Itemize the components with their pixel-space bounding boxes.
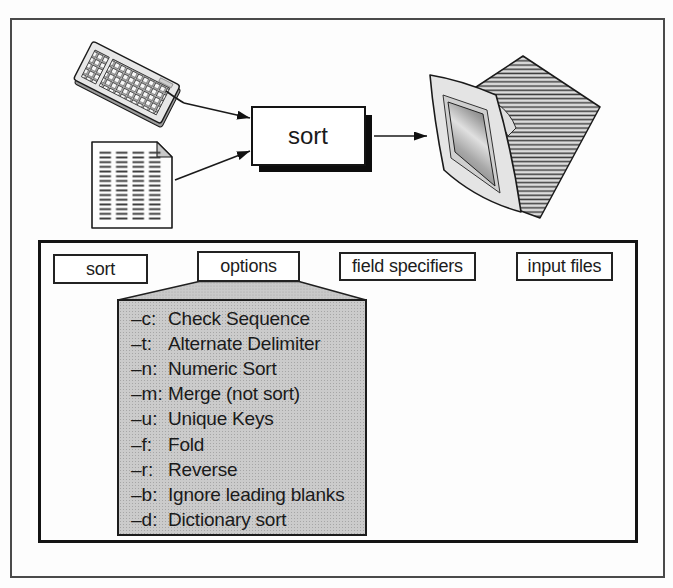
segment-box-input-files: input files [516, 252, 613, 281]
segment-label-options: options [220, 256, 277, 277]
option-desc: Reverse [168, 459, 237, 481]
keyboard-icon [72, 41, 183, 128]
option-flag: –c: [131, 308, 168, 330]
options-list-panel: –c: Check Sequence –t: Alternate Delimit… [117, 299, 367, 536]
option-row: –d: Dictionary sort [131, 508, 365, 533]
option-flag: –n: [131, 358, 168, 380]
option-flag: –m: [131, 383, 168, 405]
option-row: –f: Fold [131, 432, 365, 457]
option-row: –c: Check Sequence [131, 306, 365, 331]
document-icon [92, 142, 172, 228]
option-desc: Ignore leading blanks [168, 484, 344, 506]
option-flag: –f: [131, 434, 168, 456]
option-row: –b: Ignore leading blanks [131, 482, 365, 507]
option-flag: –u: [131, 408, 168, 430]
figure-canvas: sort sort options field specifiers input… [0, 0, 673, 588]
segment-label-field-specifiers: field specifiers [352, 256, 463, 277]
option-desc: Check Sequence [168, 308, 310, 330]
option-row: –u: Unique Keys [131, 407, 365, 432]
segment-label-input-files: input files [528, 256, 602, 277]
option-desc: Numeric Sort [168, 358, 276, 380]
option-flag: –b: [131, 484, 168, 506]
option-row: –t: Alternate Delimiter [131, 331, 365, 356]
sort-process-box: sort [252, 107, 372, 172]
option-desc: Dictionary sort [168, 509, 286, 531]
option-flag: –d: [131, 509, 168, 531]
segment-box-options: options [197, 251, 300, 282]
sort-process-label: sort [288, 122, 328, 149]
segment-box-field-specifiers: field specifiers [339, 252, 476, 281]
option-row: –n: Numeric Sort [131, 356, 365, 381]
option-desc: Unique Keys [168, 408, 274, 430]
option-flag: –r: [131, 459, 168, 481]
document-to-sort-arrow [175, 151, 250, 180]
option-row: –m: Merge (not sort) [131, 382, 365, 407]
option-row: –r: Reverse [131, 457, 365, 482]
segment-label-sort: sort [86, 259, 115, 280]
option-desc: Merge (not sort) [168, 383, 300, 405]
monitor-icon [430, 56, 600, 218]
segment-box-sort: sort [53, 254, 148, 284]
option-desc: Alternate Delimiter [168, 333, 320, 355]
keyboard-to-sort-arrow [184, 103, 250, 118]
option-flag: –t: [131, 333, 168, 355]
option-desc: Fold [168, 434, 204, 456]
